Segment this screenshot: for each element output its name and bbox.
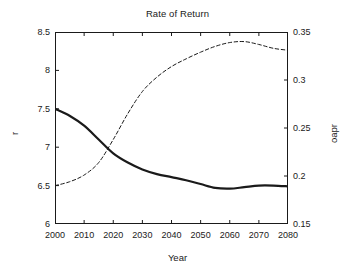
- plot-svg: [55, 32, 288, 224]
- x-axis-tick-label: 2060: [220, 230, 240, 240]
- y-axis-left-tick-label: 6: [8, 219, 50, 229]
- x-axis-tick-label: 2070: [249, 230, 269, 240]
- x-axis-tick-label: 2000: [45, 230, 65, 240]
- x-axis-tick-label: 2050: [191, 230, 211, 240]
- y-axis-left-title: r: [9, 132, 20, 135]
- y-axis-left-tick-label: 8.5: [8, 27, 50, 37]
- y-axis-left-tick-label: 8: [8, 65, 50, 75]
- y-axis-left-tick-label: 7: [8, 142, 50, 152]
- data-series-layer: [55, 41, 288, 188]
- y-axis-left-tick-label: 7.5: [8, 104, 50, 114]
- chart-title: Rate of Return: [0, 8, 355, 19]
- y-axis-right-tick-label: 0.25: [293, 123, 311, 133]
- y-axis-right-tick-label: 0.3: [293, 75, 306, 85]
- y-axis-left-tick-label: 6.5: [8, 181, 50, 191]
- y-axis-right-tick-label: 0.15: [293, 219, 311, 229]
- series-line-r: [55, 109, 288, 189]
- x-axis-tick-label: 2020: [103, 230, 123, 240]
- x-axis-title: Year: [0, 252, 355, 263]
- y-axis-right-tick-label: 0.35: [293, 27, 311, 37]
- y-axis-right-tick-label: 0.2: [293, 171, 306, 181]
- chart-figure: Rate of Return 8.587.576.56 0.350.30.250…: [0, 0, 355, 275]
- x-axis-tick-label: 2010: [74, 230, 94, 240]
- x-axis-tick-label: 2040: [161, 230, 181, 240]
- x-axis-tick-label: 2030: [132, 230, 152, 240]
- tick-marks-layer: [55, 32, 288, 224]
- y-axis-right-title: oapr: [328, 124, 339, 143]
- series-line-oapr: [55, 41, 288, 185]
- x-axis-tick-label: 2080: [278, 230, 298, 240]
